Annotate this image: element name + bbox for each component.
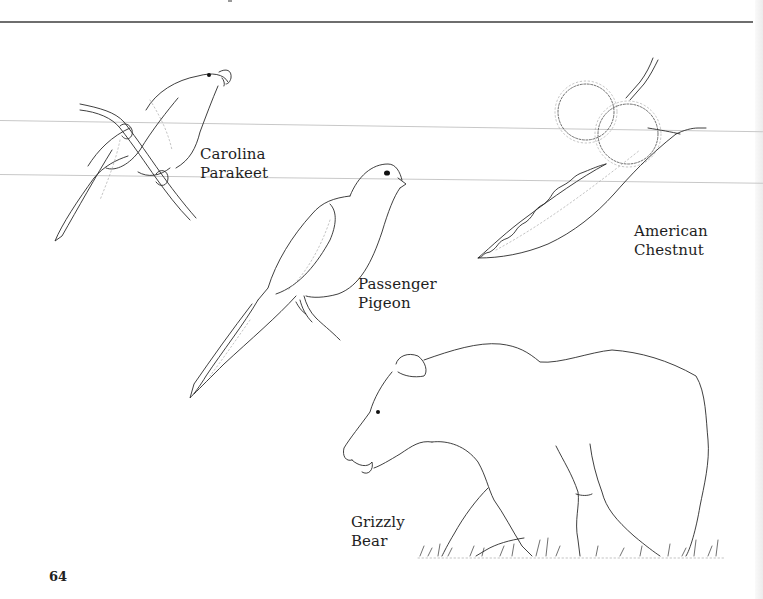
- label-line: Carolina: [200, 145, 268, 164]
- label-line: Pigeon: [358, 294, 437, 313]
- label-grizzly-bear: Grizzly Bear: [351, 513, 405, 551]
- label-line: Bear: [351, 532, 405, 551]
- page-number: 64: [49, 569, 67, 584]
- label-line: Chestnut: [634, 241, 708, 260]
- label-line: Parakeet: [200, 164, 268, 183]
- book-page: Carolina Parakeet Passenger Pigeon Ameri…: [0, 0, 763, 599]
- label-line: Passenger: [358, 275, 437, 294]
- label-line: American: [634, 222, 708, 241]
- label-line: Grizzly: [351, 513, 405, 532]
- label-carolina-parakeet: Carolina Parakeet: [200, 145, 268, 183]
- label-american-chestnut: American Chestnut: [634, 222, 708, 260]
- label-passenger-pigeon: Passenger Pigeon: [358, 275, 437, 313]
